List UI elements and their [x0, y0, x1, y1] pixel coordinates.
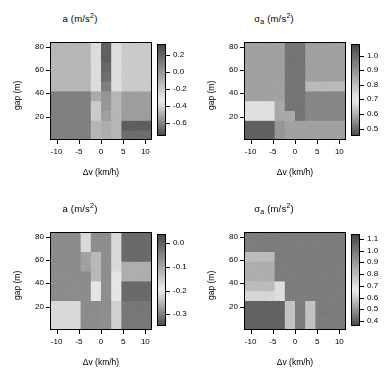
colorbar-tick-label: 0.5 — [367, 125, 378, 133]
colorbar-tick-label: 0.9 — [367, 258, 378, 266]
x-axis-label: Δv (km/h) — [244, 357, 346, 367]
y-tick-label: 60 — [22, 256, 44, 264]
x-axis-label: Δv (km/h) — [244, 167, 346, 177]
figure-panel-grid: a (m/s2) gap (m) Δv (km/h) -10-505102040… — [0, 0, 388, 381]
x-tick-mark — [101, 330, 102, 334]
y-tick-mark — [46, 47, 50, 48]
y-tick-mark — [46, 307, 50, 308]
x-axis-label: Δv (km/h) — [50, 357, 152, 367]
y-tick-label: 20 — [216, 113, 238, 121]
y-tick-label: 20 — [216, 303, 238, 311]
colorbar-top-right — [351, 44, 360, 136]
colorbar-tick-label: 0.0 — [173, 68, 184, 76]
colorbar-tick-label: -0.2 — [173, 85, 187, 93]
colorbar-tick-label: 0.6 — [367, 294, 378, 302]
y-tick-label: 40 — [216, 279, 238, 287]
x-tick-mark — [295, 140, 296, 144]
y-tick-mark — [240, 93, 244, 94]
y-tick-mark — [46, 237, 50, 238]
colorbar-tick-mark — [360, 239, 364, 240]
x-tick-mark — [273, 140, 274, 144]
x-tick-mark — [79, 140, 80, 144]
colorbar-tick-mark — [166, 267, 170, 268]
colorbar-tick-label: 0.7 — [367, 282, 378, 290]
colorbar-tick-mark — [360, 286, 364, 287]
y-tick-label: 40 — [22, 89, 44, 97]
colorbar-tick-mark — [360, 70, 364, 71]
y-tick-label: 20 — [22, 113, 44, 121]
y-axis-label: gap (m) — [206, 271, 216, 300]
colorbar-tick-label: 0.5 — [367, 305, 378, 313]
y-axis-label: gap (m) — [12, 271, 22, 300]
x-tick-label: 10 — [132, 338, 158, 346]
x-tick-mark — [317, 140, 318, 144]
panel-bottom-right: σa (m/s2) gap (m) Δv (km/h) -10-50510204… — [194, 190, 388, 381]
colorbar-tick-label: 0.7 — [367, 95, 378, 103]
colorbar-tick-label: 0.9 — [367, 66, 378, 74]
x-tick-mark — [339, 330, 340, 334]
colorbar-tick-mark — [360, 298, 364, 299]
panel-title-bottom-right: σa (m/s2) — [194, 202, 354, 215]
colorbar-tick-mark — [166, 243, 170, 244]
colorbar-tick-label: 1.0 — [367, 247, 378, 255]
y-axis-label: gap (m) — [12, 81, 22, 110]
colorbar-tick-label: 1.1 — [367, 235, 378, 243]
colorbar-tick-label: -0.4 — [173, 102, 187, 110]
x-tick-label: 10 — [132, 148, 158, 156]
y-tick-label: 80 — [216, 233, 238, 241]
panel-title-bottom-left: a (m/s2) — [0, 202, 160, 214]
colorbar-tick-label: 0.8 — [367, 81, 378, 89]
colorbar-tick-mark — [360, 129, 364, 130]
colorbar-tick-label: -0.6 — [173, 119, 187, 127]
y-tick-label: 80 — [22, 43, 44, 51]
colorbar-tick-mark — [166, 291, 170, 292]
panel-top-right: σa (m/s2) gap (m) Δv (km/h) -10-50510204… — [194, 0, 388, 191]
y-tick-label: 20 — [22, 303, 44, 311]
colorbar-tick-mark — [360, 85, 364, 86]
y-tick-mark — [240, 47, 244, 48]
y-tick-mark — [46, 70, 50, 71]
x-tick-mark — [57, 140, 58, 144]
colorbar-tick-mark — [166, 89, 170, 90]
colorbar-tick-label: 0.8 — [367, 270, 378, 278]
x-tick-mark — [317, 330, 318, 334]
y-tick-mark — [46, 117, 50, 118]
panel-title-top-left: a (m/s2) — [0, 12, 160, 24]
y-tick-label: 40 — [22, 279, 44, 287]
colorbar-tick-mark — [360, 262, 364, 263]
x-tick-mark — [273, 330, 274, 334]
x-tick-mark — [251, 330, 252, 334]
heatmap-canvas — [50, 42, 152, 140]
colorbar-tick-mark — [360, 114, 364, 115]
colorbar-tick-mark — [166, 72, 170, 73]
heatmap-canvas — [244, 42, 346, 140]
panel-title-top-right: σa (m/s2) — [194, 12, 354, 25]
colorbar-tick-mark — [360, 309, 364, 310]
colorbar-tick-mark — [360, 321, 364, 322]
colorbar-tick-label: 0.6 — [367, 110, 378, 118]
panel-top-left: a (m/s2) gap (m) Δv (km/h) -10-505102040… — [0, 0, 194, 190]
x-tick-mark — [295, 330, 296, 334]
x-tick-mark — [57, 330, 58, 334]
x-tick-mark — [79, 330, 80, 334]
colorbar-tick-label: -0.2 — [173, 287, 187, 295]
y-tick-mark — [240, 117, 244, 118]
x-tick-mark — [251, 140, 252, 144]
colorbar-tick-label: 1.0 — [367, 52, 378, 60]
heatmap-bottom-left — [50, 232, 152, 330]
y-tick-mark — [240, 260, 244, 261]
y-tick-mark — [240, 283, 244, 284]
colorbar-tick-mark — [166, 106, 170, 107]
colorbar-tick-mark — [166, 55, 170, 56]
colorbar-top-left — [157, 44, 166, 136]
colorbar-tick-label: 0.0 — [173, 239, 184, 247]
colorbar-tick-label: -0.3 — [173, 310, 187, 318]
y-tick-label: 80 — [216, 43, 238, 51]
x-tick-mark — [123, 330, 124, 334]
x-axis-label: Δv (km/h) — [50, 167, 152, 177]
y-tick-label: 60 — [216, 256, 238, 264]
heatmap-canvas — [244, 232, 346, 330]
heatmap-bottom-right — [244, 232, 346, 330]
colorbar-tick-label: -0.1 — [173, 263, 187, 271]
y-tick-label: 60 — [216, 66, 238, 74]
